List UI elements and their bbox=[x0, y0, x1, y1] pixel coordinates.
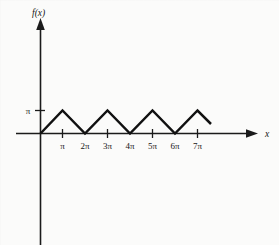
x-tick-label-4: 5π bbox=[148, 141, 158, 151]
x-tick-label-1: 2π bbox=[80, 141, 90, 151]
x-tick-label-6: 7π bbox=[193, 141, 203, 151]
x-axis-arrow-icon bbox=[246, 129, 258, 138]
y-axis-title: f(x) bbox=[32, 8, 45, 19]
triangular-wave-plot: f(x) x π π 2π 3π 4π 5π 6π 7π bbox=[0, 0, 279, 245]
x-axis-title: x bbox=[264, 129, 270, 139]
y-axis-arrow-icon bbox=[36, 18, 45, 30]
wave-curve bbox=[41, 111, 212, 134]
y-tick-label-pi: π bbox=[26, 106, 31, 116]
figure-root: f(x) x π π 2π 3π 4π 5π 6π 7π bbox=[0, 0, 279, 245]
x-tick-label-2: 3π bbox=[103, 141, 113, 151]
x-tick-label-0: π bbox=[60, 141, 65, 151]
x-tick-label-5: 6π bbox=[170, 141, 180, 151]
x-tick-label-3: 4π bbox=[125, 141, 135, 151]
